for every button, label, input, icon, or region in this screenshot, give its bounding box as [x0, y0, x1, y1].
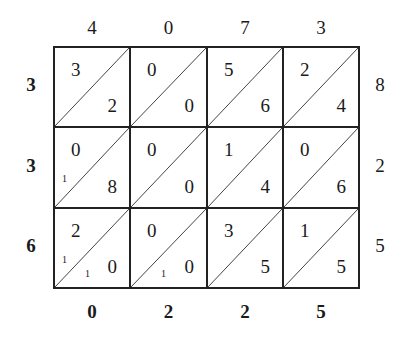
diagonal-line: [131, 209, 206, 287]
bottom-digit: 5: [306, 302, 336, 322]
diagonal-line: [55, 128, 129, 207]
tens-digit: 2: [300, 60, 310, 80]
left-digit: 3: [16, 75, 46, 95]
ones-digit: 0: [185, 96, 195, 116]
lattice-cell: 2011: [53, 207, 131, 289]
lattice-cell: 32: [53, 46, 131, 128]
lattice-cell: 00: [129, 46, 208, 128]
tens-digit: 0: [71, 140, 81, 160]
tens-digit: 3: [71, 60, 81, 80]
right-digit: 5: [365, 236, 395, 256]
diagonal-line: [284, 209, 358, 287]
diagonal-line: [208, 48, 282, 126]
diagonal-line: [55, 48, 129, 126]
ones-digit: 8: [108, 177, 118, 197]
carry-digit: 1: [161, 269, 166, 279]
left-digit: 3: [16, 156, 46, 176]
tens-digit: 3: [224, 221, 234, 241]
diagonal-line: [284, 128, 358, 207]
right-digit: 8: [365, 75, 395, 95]
ones-digit: 5: [261, 257, 271, 277]
top-digit: 0: [154, 18, 184, 38]
lattice-cell: 06: [282, 126, 360, 209]
tens-digit: 0: [147, 140, 157, 160]
ones-digit: 6: [261, 96, 271, 116]
lattice-cell: 35: [206, 207, 284, 289]
diagonal-line: [55, 209, 129, 287]
ones-digit: 0: [108, 257, 118, 277]
bottom-digit: 2: [230, 302, 260, 322]
ones-digit: 6: [337, 177, 347, 197]
tens-digit: 0: [300, 140, 310, 160]
top-digit: 3: [306, 18, 336, 38]
bottom-digit: 2: [154, 302, 184, 322]
lattice-cell: 081: [53, 126, 131, 209]
diagonal-line: [284, 48, 358, 126]
top-digit: 7: [230, 18, 260, 38]
tens-digit: 5: [224, 60, 234, 80]
tens-digit: 0: [147, 221, 157, 241]
tens-digit: 1: [300, 221, 310, 241]
ones-digit: 4: [261, 177, 271, 197]
lattice-cell: 001: [129, 207, 208, 289]
right-digit: 2: [365, 156, 395, 176]
ones-digit: 0: [185, 257, 195, 277]
diagonal-line: [131, 128, 206, 207]
lattice-cell: 00: [129, 126, 208, 209]
lattice-cell: 56: [206, 46, 284, 128]
diagonal-line: [131, 48, 206, 126]
tens-digit: 0: [147, 60, 157, 80]
ones-digit: 0: [185, 177, 195, 197]
ones-digit: 4: [337, 96, 347, 116]
left-digit: 6: [16, 236, 46, 256]
carry-digit: 1: [85, 269, 90, 279]
ones-digit: 5: [337, 257, 347, 277]
tens-digit: 1: [224, 140, 234, 160]
ones-digit: 2: [108, 96, 118, 116]
diagonal-line: [208, 128, 282, 207]
lattice-cell: 24: [282, 46, 360, 128]
top-digit: 4: [77, 18, 107, 38]
bottom-digit: 0: [77, 302, 107, 322]
diagonal-line: [208, 209, 282, 287]
lattice-cell: 14: [206, 126, 284, 209]
carry-digit: 1: [62, 174, 67, 184]
lattice-cell: 15: [282, 207, 360, 289]
carry-digit: 1: [62, 255, 67, 265]
tens-digit: 2: [71, 221, 81, 241]
